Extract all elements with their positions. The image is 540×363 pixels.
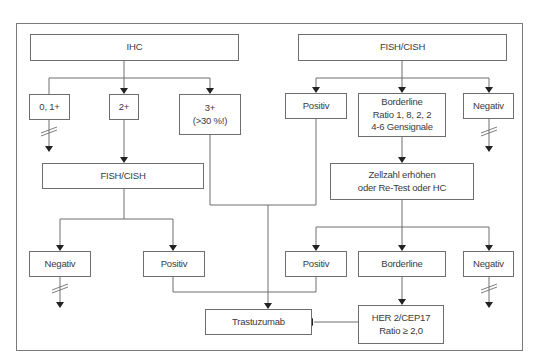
node-ihc-0-1: 0, 1+ [29,94,70,120]
node-label: HER 2/CEP17 Ratio ≥ 2,0 [372,312,431,337]
node-label: IHC [127,41,143,54]
node-label: Negativ [473,258,504,271]
node-label: 0, 1+ [39,101,59,114]
node-retest-positiv: Positiv [285,251,347,277]
node-label: Positiv [161,258,188,271]
node-her2-ratio: HER 2/CEP17 Ratio ≥ 2,0 [358,305,444,344]
node-label: FISH/CISH [380,41,425,54]
node-label: 2+ [119,101,129,114]
node-left-negativ: Negativ [29,251,91,277]
node-label: FISH/CISH [100,170,145,183]
node-right-positiv: Positiv [285,93,347,119]
node-retest: Zellzahl erhöhen oder Re-Test oder HC [330,163,474,200]
node-trastuzumab: Trastuzumab [205,309,312,335]
node-label: 3+ (>30 %!) [193,102,228,127]
node-label: Positiv [303,258,330,271]
node-label: Borderline Ratio 1, 8, 2, 2 4-6 Gensigna… [371,96,433,134]
her2-testing-flowchart: IHC 0, 1+ 2+ 3+ (>30 %!) FISH/CISH Negat… [0,0,540,363]
node-right-borderline: Borderline Ratio 1, 8, 2, 2 4-6 Gensigna… [358,93,446,137]
node-left-positiv: Positiv [143,251,205,277]
node-ihc-2: 2+ [109,94,139,120]
node-ihc-3: 3+ (>30 %!) [179,94,241,135]
node-label: Zellzahl erhöhen oder Re-Test oder HC [358,169,446,194]
node-fish-cish-left: FISH/CISH [42,163,204,189]
node-right-negativ: Negativ [463,93,514,119]
node-label: Borderline [381,258,422,271]
node-label: Negativ [45,258,76,271]
node-ihc: IHC [30,34,239,61]
node-retest-borderline: Borderline [358,251,446,277]
node-fish-cish-right: FISH/CISH [298,34,507,61]
node-label: Trastuzumab [232,316,285,329]
node-label: Positiv [303,100,330,113]
node-retest-negativ: Negativ [463,251,514,277]
node-label: Negativ [473,100,504,113]
